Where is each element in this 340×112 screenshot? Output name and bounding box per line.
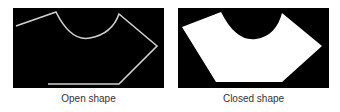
open-shape-panel: [13, 8, 164, 88]
open-shape-caption: Open shape: [13, 93, 164, 104]
open-shape-outline: [13, 8, 164, 88]
closed-shape-fill: [178, 8, 329, 88]
closed-shape-caption: Closed shape: [178, 93, 329, 104]
closed-shape-panel: [178, 8, 329, 88]
